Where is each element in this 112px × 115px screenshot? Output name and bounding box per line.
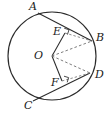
geometry-figure: A B C D E F O	[0, 0, 112, 115]
point-label-d: D	[95, 69, 104, 80]
point-label-e: E	[53, 26, 61, 37]
point-label-a: A	[29, 1, 37, 12]
figure-canvas	[0, 0, 112, 115]
right-angle-marker-f	[64, 76, 69, 82]
point-label-c: C	[24, 100, 32, 111]
radius-ob	[52, 41, 92, 56]
point-label-f: F	[51, 77, 59, 88]
point-label-b: B	[96, 32, 104, 43]
chord-cd	[33, 73, 90, 101]
point-label-o: O	[34, 50, 43, 61]
chord-ab	[38, 13, 92, 41]
